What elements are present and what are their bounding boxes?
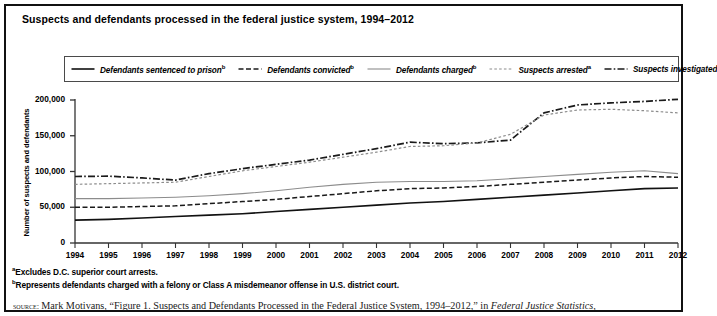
legend-label: Suspects investigated [633,65,717,74]
x-axis-tick-label: 2000 [259,250,293,260]
x-axis-tick-label: 1997 [159,250,193,260]
legend-defendants-sentenced-to-prison[interactable]: Defendants sentenced to prisonb [71,64,225,75]
legend-line-swatch-solid-gray-icon [367,64,391,74]
footnote-b: bRepresents defendants charged with a fe… [12,279,399,290]
legend-footnote-marker: b [222,64,226,70]
chart-legend: Defendants sentenced to prisonbDefendant… [64,56,679,82]
x-axis-tick-label: 2012 [661,250,695,260]
x-axis-tick-label: 2001 [293,250,327,260]
legend-label: Suspects arresteda [518,64,591,75]
legend-line-swatch-dashdot-dark-icon [604,64,628,74]
x-axis-tick-label: 2002 [326,250,360,260]
page-title: Suspects and defendants processed in the… [22,13,414,25]
legend-footnote-marker: a [588,64,591,70]
x-axis-tick-label: 1994 [58,250,92,260]
legend-line-swatch-dotted-gray-icon [489,64,513,74]
y-axis-tick-label: 100,000 [19,166,65,176]
legend-line-swatch-solid-dark-icon [71,64,95,74]
y-axis-tick-label: 150,000 [19,130,65,140]
source-label: source: [13,301,41,311]
source-citation: source: Mark Motivans, “Figure 1. Suspec… [13,300,596,311]
x-axis-tick-label: 2003 [360,250,394,260]
legend-defendants-convicted[interactable]: Defendants convictedb [238,64,354,75]
footnote-text: Excludes D.C. superior court arrests. [15,267,157,277]
source-text: Mark Motivans, “Figure 1. Suspects and D… [41,300,491,311]
footnote-text: Represents defendants charged with a fel… [16,280,399,290]
x-axis-tick-label: 1995 [92,250,126,260]
legend-label: Defendants chargedb [396,64,477,75]
legend-label: Defendants convictedb [267,64,354,75]
source-publication-title: Federal Justice Statistics, [491,300,596,311]
x-axis-tick-label: 2004 [393,250,427,260]
x-axis-tick-label: 2008 [527,250,561,260]
legend-label: Defendants sentenced to prisonb [100,64,225,75]
y-axis-tick-label: 200,000 [19,94,65,104]
legend-suspects-investigated[interactable]: Suspects investigated [604,64,717,74]
x-axis-tick-label: 1996 [125,250,159,260]
x-axis-tick-label: 2011 [628,250,662,260]
x-axis-tick-label: 2006 [460,250,494,260]
legend-defendants-charged[interactable]: Defendants chargedb [367,64,477,75]
x-axis-tick-label: 1999 [226,250,260,260]
legend-footnote-marker: b [473,64,477,70]
x-axis-tick-label: 1998 [192,250,226,260]
legend-footnote-marker: b [350,64,354,70]
y-axis-tick-label: 0 [19,237,65,247]
x-axis-tick-label: 2007 [494,250,528,260]
x-axis-tick-label: 2005 [427,250,461,260]
footnote-a: aExcludes D.C. superior court arrests. [12,266,158,277]
y-axis-tick-label: 50,000 [19,201,65,211]
x-axis-tick-label: 2009 [561,250,595,260]
legend-line-swatch-dashed-dark-icon [238,64,262,74]
legend-suspects-arrested[interactable]: Suspects arresteda [489,64,591,75]
x-axis-tick-label: 2010 [594,250,628,260]
